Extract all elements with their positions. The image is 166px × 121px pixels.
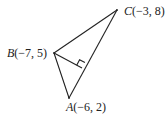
triangle-diagram: C(−3, 8) B(−7, 5) A(−6, 2) [0,0,166,121]
label-a: A(−6, 2) [65,100,106,114]
triangle-sides [54,10,117,98]
label-a-coords: (−6, 2) [73,100,106,114]
label-b-coords: (−7, 5) [14,46,47,60]
label-c-coords: (−3, 8) [132,4,165,18]
side-ac [69,10,117,98]
vertex-a-dot [68,97,70,99]
side-bc [54,10,117,53]
right-angle-marker [77,60,85,65]
label-b: B(−7, 5) [7,46,47,60]
vertex-dots [53,9,118,99]
vertex-c-dot [116,9,118,11]
label-c: C(−3, 8) [124,4,165,18]
vertex-b-dot [53,52,55,54]
